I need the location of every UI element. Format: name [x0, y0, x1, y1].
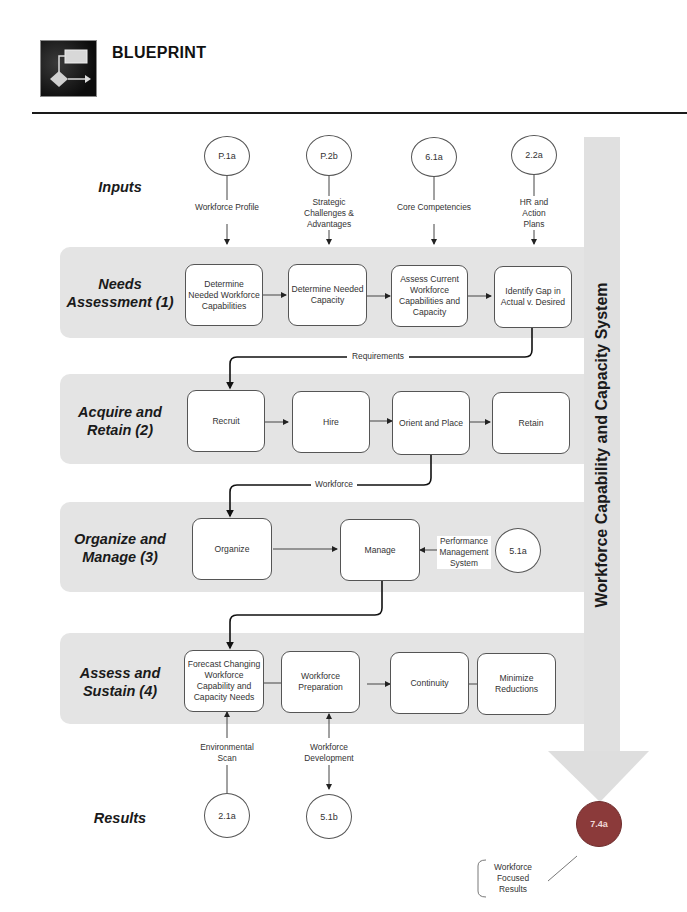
step-hire[interactable]: Hire	[292, 391, 370, 453]
input-label-workforce-profile: Workforce Profile	[192, 202, 262, 213]
section-label-4: Assess and Sustain (4)	[60, 664, 180, 700]
input-circle-p2b[interactable]: P.2b	[306, 135, 352, 176]
step-retain[interactable]: Retain	[492, 392, 570, 454]
step-manage[interactable]: Manage	[340, 519, 420, 581]
input-circle-p1a[interactable]: P.1a	[204, 136, 250, 176]
step-orient-place[interactable]: Orient and Place	[392, 391, 470, 455]
step-continuity[interactable]: Continuity	[390, 652, 469, 714]
step-recruit[interactable]: Recruit	[187, 390, 265, 452]
performance-management-label: Performance Management System	[437, 536, 491, 569]
step-determine-needed-capacity[interactable]: Determine Needed Capacity	[288, 264, 367, 326]
final-result-label: Workforce Focused Results	[488, 862, 538, 895]
step-forecast-changing-needs[interactable]: Forecast Changing Workforce Capability a…	[184, 650, 264, 712]
result-label-workforce-development: Workforce Development	[292, 742, 366, 764]
step-workforce-preparation[interactable]: Workforce Preparation	[281, 651, 360, 713]
step-assess-current-capabilities[interactable]: Assess Current Workforce Capabilities an…	[391, 265, 468, 327]
connector-lines	[0, 0, 687, 912]
step-organize[interactable]: Organize	[192, 518, 272, 580]
result-circle-2-1a[interactable]: 2.1a	[204, 793, 250, 838]
input-label-core-competencies: Core Competencies	[394, 202, 474, 213]
row-label-inputs: Inputs	[60, 178, 180, 196]
section-label-2: Acquire and Retain (2)	[60, 403, 180, 439]
final-result-circle-7-4a[interactable]: 7.4a	[576, 801, 622, 847]
input-circle-5-1a[interactable]: 5.1a	[495, 528, 541, 573]
input-circle-2-2a[interactable]: 2.2a	[511, 135, 557, 175]
step-minimize-reductions[interactable]: Minimize Reductions	[477, 653, 556, 715]
input-label-hr-action-plans: HR and Action Plans	[514, 197, 554, 230]
connector-label-requirements: Requirements	[347, 351, 409, 362]
section-label-1: Needs Assessment (1)	[60, 275, 180, 311]
input-circle-6-1a[interactable]: 6.1a	[411, 137, 457, 177]
connector-label-workforce: Workforce	[311, 479, 357, 490]
input-label-strategic-challenges: Strategic Challenges & Advantages	[292, 197, 366, 230]
row-label-results: Results	[60, 809, 180, 827]
section-label-3: Organize and Manage (3)	[60, 530, 180, 566]
step-identify-gap[interactable]: Identify Gap in Actual v. Desired	[494, 266, 572, 328]
result-label-environmental-scan: Environmental Scan	[191, 742, 263, 764]
step-determine-needed-capabilities[interactable]: Determine Needed Workforce Capabilities	[185, 264, 263, 326]
result-circle-5-1b[interactable]: 5.1b	[306, 794, 352, 839]
